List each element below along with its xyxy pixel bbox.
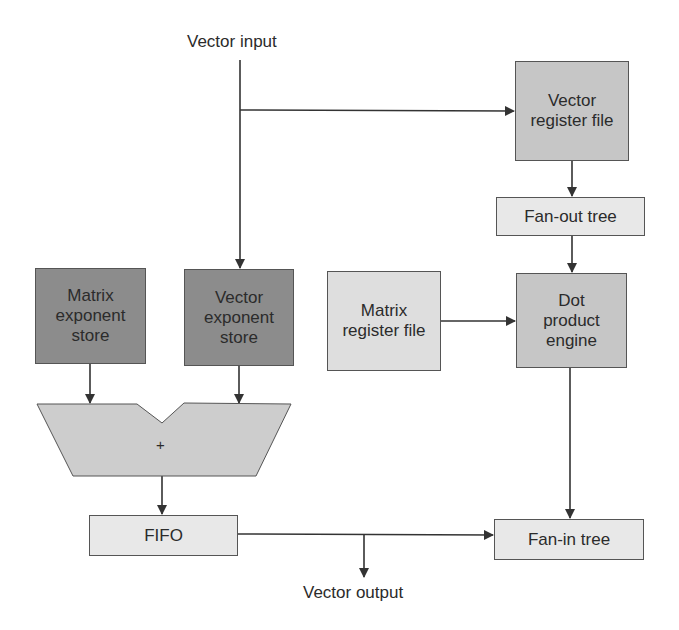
fan-in-tree-label: Fan-in tree bbox=[528, 530, 610, 550]
dot-product-engine-block: Dot product engine bbox=[516, 273, 627, 368]
matrix-register-file-block: Matrix register file bbox=[327, 271, 441, 371]
fan-out-tree-label: Fan-out tree bbox=[524, 207, 617, 227]
vector-input-label: Vector input bbox=[187, 32, 277, 52]
vector-exponent-store-label: Vector exponent store bbox=[191, 288, 287, 348]
vector-register-file-block: Vector register file bbox=[515, 61, 629, 161]
fifo-block: FIFO bbox=[89, 515, 238, 556]
matrix-register-file-label: Matrix register file bbox=[342, 301, 426, 341]
fan-in-tree-block: Fan-in tree bbox=[494, 519, 644, 560]
fan-out-tree-block: Fan-out tree bbox=[496, 197, 645, 236]
matrix-exponent-store-block: Matrix exponent store bbox=[35, 268, 146, 364]
dot-product-engine-label: Dot product engine bbox=[533, 291, 610, 351]
vector-register-file-label: Vector register file bbox=[530, 91, 614, 131]
matrix-exponent-store-label: Matrix exponent store bbox=[42, 286, 139, 346]
vector-output-label: Vector output bbox=[303, 583, 403, 603]
fifo-label: FIFO bbox=[144, 526, 183, 546]
adder-plus-symbol: + bbox=[156, 436, 165, 453]
vector-exponent-store-block: Vector exponent store bbox=[184, 269, 294, 366]
